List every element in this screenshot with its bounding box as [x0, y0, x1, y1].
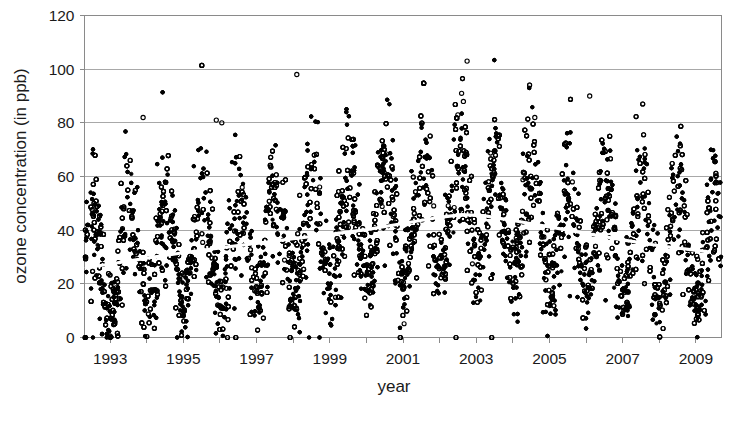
y-tick-label: 40: [57, 222, 75, 239]
data-point: [593, 280, 596, 283]
data-point: [716, 226, 719, 229]
data-point: [637, 229, 640, 232]
data-point: [366, 273, 369, 276]
data-point: [240, 198, 243, 201]
data-point: [95, 274, 98, 277]
data-point: [249, 296, 252, 299]
data-point: [394, 184, 397, 187]
data-point: [582, 284, 585, 287]
data-point: [525, 213, 528, 216]
data-point: [638, 155, 641, 158]
data-point: [602, 151, 605, 154]
data-point: [679, 163, 682, 166]
data-point: [351, 151, 354, 154]
data-point: [403, 276, 406, 279]
data-point: [158, 181, 161, 184]
data-point: [577, 244, 580, 247]
data-point: [693, 309, 696, 312]
data-point: [672, 238, 675, 241]
data-point: [658, 320, 661, 323]
data-point: [89, 287, 92, 290]
x-tick-label: 1999: [313, 350, 347, 367]
data-point: [250, 286, 253, 289]
data-point: [466, 205, 469, 208]
data-point: [328, 246, 331, 249]
data-point: [555, 248, 558, 251]
data-point: [544, 271, 547, 274]
data-point: [661, 290, 664, 293]
data-point: [417, 194, 420, 197]
data-point: [549, 312, 552, 315]
data-point: [99, 288, 102, 291]
data-point: [291, 265, 294, 268]
data-point: [262, 246, 265, 249]
data-point: [491, 273, 494, 276]
data-point: [612, 286, 615, 289]
data-point: [616, 274, 619, 277]
data-point: [636, 149, 639, 152]
data-point: [368, 239, 371, 242]
data-point: [227, 199, 230, 202]
data-point: [100, 333, 103, 336]
data-point: [202, 197, 205, 200]
data-point: [168, 219, 171, 222]
data-point: [262, 275, 265, 278]
data-point: [334, 304, 337, 307]
data-point: [363, 264, 366, 267]
data-point: [306, 243, 309, 246]
data-point: [132, 255, 135, 258]
data-point: [700, 303, 703, 306]
data-point: [91, 152, 94, 155]
data-point: [291, 306, 294, 309]
data-point: [696, 336, 699, 339]
data-point: [450, 184, 453, 187]
data-point: [258, 311, 261, 314]
data-point: [639, 181, 642, 184]
data-point: [488, 137, 491, 140]
data-point: [700, 283, 703, 286]
data-point: [493, 58, 496, 61]
data-point: [705, 183, 708, 186]
data-point: [357, 239, 360, 242]
data-point: [250, 229, 253, 232]
data-point: [197, 209, 200, 212]
data-point: [675, 135, 678, 138]
data-point: [353, 166, 356, 169]
data-point: [564, 218, 567, 221]
data-point: [386, 98, 389, 101]
data-point: [678, 184, 681, 187]
data-point: [116, 286, 119, 289]
data-point: [553, 262, 556, 265]
data-point: [189, 292, 192, 295]
data-point: [546, 334, 549, 337]
data-point: [321, 254, 324, 257]
data-point: [686, 253, 689, 256]
data-point: [684, 259, 687, 262]
data-point: [584, 317, 587, 320]
data-point: [670, 167, 673, 170]
data-point: [123, 155, 126, 158]
data-point: [688, 304, 691, 307]
data-point: [611, 183, 614, 186]
data-point: [456, 164, 459, 167]
data-point: [185, 283, 188, 286]
data-point: [510, 300, 513, 303]
data-point: [345, 209, 348, 212]
data-point: [360, 253, 363, 256]
data-point: [171, 241, 174, 244]
data-point: [514, 297, 517, 300]
data-point: [358, 221, 361, 224]
data-point: [552, 286, 555, 289]
data-point: [92, 192, 95, 195]
data-point: [319, 212, 322, 215]
data-point: [155, 241, 158, 244]
data-point: [195, 268, 198, 271]
data-point: [709, 259, 712, 262]
data-point: [490, 184, 493, 187]
data-point: [205, 150, 208, 153]
data-point: [515, 256, 518, 259]
data-point: [588, 273, 591, 276]
data-point: [534, 163, 537, 166]
data-point: [452, 231, 455, 234]
data-point: [604, 299, 607, 302]
